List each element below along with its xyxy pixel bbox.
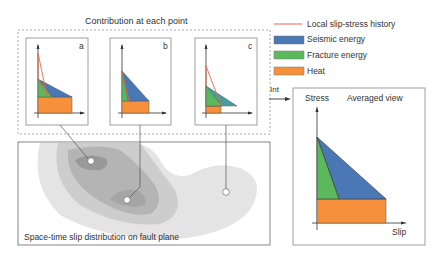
legend-label-fracture: Fracture energy [307, 50, 367, 60]
point-a-marker [88, 158, 95, 165]
panel-b-label: b [163, 41, 168, 51]
legend-label-heat: Heat [307, 66, 325, 76]
legend-swatch-seismic [274, 36, 304, 44]
legend-swatch-heat [274, 67, 304, 75]
panel-b [110, 38, 171, 125]
panel-c [195, 38, 257, 125]
panel-a-label: a [79, 41, 84, 51]
point-c-marker [223, 189, 230, 196]
averaged-view-title: Averaged view [347, 93, 403, 103]
point-b-marker [124, 197, 131, 204]
legend-label-seismic: Seismic energy [307, 34, 365, 44]
int-arrow-icon [285, 97, 291, 101]
stress-axis-label: Stress [305, 93, 329, 103]
legend-label-history: Local slip-stress history [307, 19, 395, 29]
diagram-canvas [0, 0, 440, 259]
int-label: Int [270, 85, 279, 94]
contribution-title: Contribution at each point [85, 16, 188, 26]
legend-swatch-fracture [274, 51, 304, 59]
fault-plane-caption: Space-time slip distribution on fault pl… [24, 232, 179, 242]
slip-axis-label: Slip [392, 227, 406, 237]
panel-c-label: c [248, 41, 252, 51]
panel-a [26, 38, 88, 125]
